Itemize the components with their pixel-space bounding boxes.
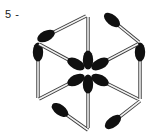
matchstick-inner-spoke-upright <box>89 44 138 73</box>
matchstick-inner-spoke-up <box>83 17 93 70</box>
matchstick-stick-body <box>39 82 72 99</box>
matchstick-outer-top-right <box>101 10 139 42</box>
matchstick-outer-right <box>135 43 145 100</box>
matchstick-head <box>35 27 57 45</box>
matchstick-inner-spoke-upleft <box>39 44 87 73</box>
matchstick-inner-spoke-downleft <box>39 71 87 99</box>
figure-canvas: 5 - <box>0 0 163 140</box>
matchstick-outer-left <box>33 43 43 99</box>
matchstick-outer-top-left <box>35 16 86 45</box>
matchstick-stick-body <box>39 44 72 62</box>
matchstick-inner-spoke-downright <box>89 71 138 99</box>
matchstick-outer-bottom-right <box>102 101 140 132</box>
matchstick-stick-body <box>50 16 86 34</box>
matchstick-stick-body <box>104 44 138 62</box>
matchstick-outer-bottom-left <box>49 100 88 130</box>
matchstick-stick-body <box>104 82 138 99</box>
matchstick-inner-spoke-down <box>83 75 93 129</box>
matchstick-hexagon-figure <box>0 0 163 140</box>
